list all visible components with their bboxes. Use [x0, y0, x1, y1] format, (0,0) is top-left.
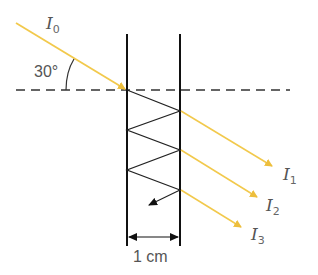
internal-reflections — [127, 90, 180, 190]
width-label: 1 cm — [133, 248, 168, 265]
transmitted-label-2: I2 — [265, 195, 280, 218]
multiple-reflection-diagram: I0 30° I1 I2 I3 1 cm — [0, 0, 318, 275]
continuing-reflection-arrow — [149, 190, 180, 205]
incident-intensity-label: I0 — [45, 13, 60, 36]
transmitted-label-1: I1 — [282, 164, 297, 187]
angle-label: 30° — [34, 63, 58, 80]
transmitted-ray-3 — [181, 190, 241, 227]
incident-ray — [16, 23, 125, 89]
angle-arc — [66, 59, 74, 90]
transmitted-label-3: I3 — [250, 224, 265, 247]
diagram-canvas: I0 30° I1 I2 I3 1 cm — [0, 0, 318, 275]
transmitted-ray-2 — [181, 150, 257, 197]
